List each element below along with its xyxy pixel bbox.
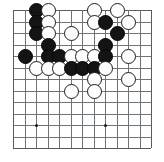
white-stone [121, 15, 136, 30]
go-board-diagram [0, 0, 164, 162]
star-point [35, 124, 38, 127]
grid-line-vertical [151, 10, 152, 148]
black-stone [98, 15, 113, 30]
white-stone [110, 3, 125, 18]
black-stone [110, 26, 125, 41]
grid-line-horizontal [13, 148, 151, 149]
grid-line-vertical [25, 10, 26, 148]
white-stone [64, 26, 79, 41]
white-stone [121, 49, 136, 64]
white-stone [64, 84, 79, 99]
grid-line-vertical [140, 10, 141, 148]
star-point [104, 124, 107, 127]
white-stone [121, 72, 136, 87]
grid-line-vertical [105, 10, 106, 148]
white-stone [87, 84, 102, 99]
grid-line-vertical [82, 10, 83, 148]
grid-line-vertical [59, 10, 60, 148]
black-stone [18, 49, 33, 64]
goban-grid [0, 0, 164, 162]
grid-line-vertical [13, 10, 14, 148]
white-stone [98, 61, 113, 76]
